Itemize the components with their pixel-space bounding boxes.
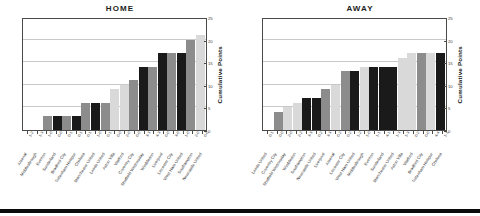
team-name: Leicester City: [170, 152, 174, 155]
bar[interactable]: [196, 35, 205, 130]
bar[interactable]: [407, 53, 416, 130]
chart-title-away: AWAY: [240, 4, 480, 13]
bar[interactable]: [148, 67, 157, 130]
y-tick-mark: [204, 108, 207, 109]
team-name: Everton: [371, 152, 375, 155]
plot-area-home: [22, 18, 207, 131]
team-name: Arsenal: [332, 152, 336, 155]
team-name: Newcastle United: [199, 152, 203, 155]
team-name: West Ham United: [179, 152, 183, 155]
x-axis-label: 0-0Newcastle United: [197, 134, 207, 194]
y-tick-mark: [204, 86, 207, 87]
chart-panel-home: HOME 0510152025 Cumulative Points 1-2Ars…: [0, 0, 240, 200]
bar[interactable]: [379, 67, 388, 130]
bar[interactable]: [43, 116, 52, 130]
bar[interactable]: [91, 103, 100, 130]
team-name: Watford: [410, 152, 414, 155]
y-tick-mark: [444, 41, 447, 42]
y-tick-label: 15: [208, 61, 213, 66]
bar[interactable]: [350, 71, 359, 130]
bar[interactable]: [436, 53, 445, 130]
team-name: Sheffield Wednesday: [140, 152, 144, 155]
team-name: Bradford City: [63, 152, 67, 155]
team-name: Sunderland: [53, 152, 57, 155]
y-tick-label: 20: [448, 38, 453, 43]
bar[interactable]: [53, 116, 62, 130]
y-tick-label: 10: [448, 83, 453, 88]
match-score: 0-0: [203, 130, 210, 137]
team-name: Arsenal: [24, 152, 28, 155]
y-tick-mark: [204, 41, 207, 42]
y-tick-label: 25: [448, 16, 453, 21]
team-name: Liverpool: [160, 152, 164, 155]
team-name: Bradford City: [419, 152, 423, 155]
y-tick-mark: [204, 63, 207, 64]
bar[interactable]: [177, 53, 186, 130]
y-tick-label: 5: [448, 106, 450, 111]
team-name: Chelsea: [439, 152, 443, 155]
bar[interactable]: [158, 53, 167, 130]
y-tick-label: 25: [208, 16, 213, 21]
bar[interactable]: [360, 67, 369, 130]
team-name: Liverpool: [322, 152, 326, 155]
chart-panel-away: AWAY 0510152025 Cumulative Points 0-1Lee…: [240, 0, 480, 200]
y-tick-label: 15: [448, 61, 453, 66]
grid-line: [263, 16, 446, 17]
bar[interactable]: [312, 98, 321, 130]
y-axis-title-text-away: Cumulative Points: [456, 46, 463, 103]
team-name: Manchester United: [390, 152, 394, 155]
bar[interactable]: [110, 89, 119, 130]
bar[interactable]: [398, 58, 407, 130]
chart-title-home: HOME: [0, 4, 240, 13]
team-name: Middlesbrough: [361, 152, 365, 155]
bar[interactable]: [62, 116, 71, 130]
bar[interactable]: [331, 85, 340, 130]
y-tick-label: 5: [208, 106, 210, 111]
team-name: Aston Villa: [400, 152, 404, 155]
team-name: Tottenham Hotspur: [72, 152, 76, 155]
team-name: Leicester City: [341, 152, 345, 155]
x-axis-label: 1-1Chelsea: [437, 134, 447, 194]
team-name: Sunderland: [380, 152, 384, 155]
y-axis-title-text-home: Cumulative Points: [216, 46, 223, 103]
bar[interactable]: [120, 85, 129, 130]
bar[interactable]: [129, 80, 138, 130]
team-name: Wimbledon: [293, 152, 297, 155]
bar-series-home: [23, 19, 206, 130]
y-tick-mark: [444, 86, 447, 87]
bar[interactable]: [101, 103, 110, 130]
team-name: Southampton: [189, 152, 193, 155]
team-name: Aston Villa: [111, 152, 115, 155]
bar[interactable]: [139, 67, 148, 130]
team-name: Leeds United: [101, 152, 105, 155]
bar[interactable]: [81, 103, 90, 130]
bar[interactable]: [426, 53, 435, 130]
grid-line: [23, 16, 206, 17]
bar[interactable]: [283, 107, 292, 130]
bar[interactable]: [417, 53, 426, 130]
bar[interactable]: [274, 112, 283, 130]
footer-rule: [0, 209, 480, 213]
team-name: Southampton: [303, 152, 307, 155]
team-name: Wimbledon: [150, 152, 154, 155]
bar-series-away: [263, 19, 446, 130]
bar[interactable]: [72, 116, 81, 130]
team-name: Coventry City: [131, 152, 135, 155]
bar[interactable]: [321, 89, 330, 130]
y-tick-mark: [444, 18, 447, 19]
team-name: Tottenham Hotspur: [429, 152, 433, 155]
y-tick-mark: [204, 18, 207, 19]
y-tick-mark: [444, 63, 447, 64]
bar[interactable]: [341, 71, 350, 130]
team-name: Coventry City: [273, 152, 277, 155]
y-axis-title-away: Cumulative Points: [453, 18, 465, 131]
team-name: Sheffield Wednesday: [283, 152, 287, 155]
bar[interactable]: [293, 103, 302, 130]
bar[interactable]: [369, 67, 378, 130]
bar[interactable]: [186, 40, 195, 130]
bar[interactable]: [167, 53, 176, 130]
bar[interactable]: [302, 98, 311, 130]
y-tick-label: 10: [208, 83, 213, 88]
y-tick-mark: [444, 108, 447, 109]
bar[interactable]: [388, 67, 397, 130]
